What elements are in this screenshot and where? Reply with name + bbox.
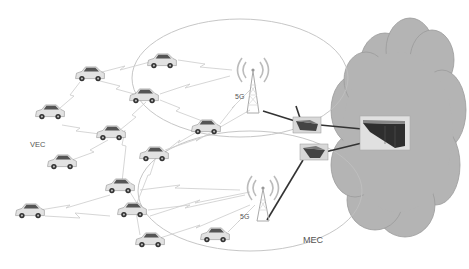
vehicle-icon [148, 54, 177, 68]
5g-tower-top-icon [238, 58, 269, 113]
vehicle-icon [106, 179, 135, 193]
vec-label: VEC [30, 140, 46, 149]
vehicle-icon [118, 203, 147, 217]
5g-tower-bottom-icon [248, 176, 279, 221]
lower-coverage-ellipse [138, 131, 362, 251]
vehicle-icon [136, 233, 165, 247]
vehicle-icon [16, 204, 45, 218]
vehicle-icon [140, 147, 169, 161]
vehicle-icon [201, 228, 230, 242]
vehicle-icon [192, 120, 221, 134]
vehicle-icon [48, 155, 77, 169]
vehicle-icon [76, 67, 105, 81]
vehicle-icon [97, 126, 126, 140]
vec-mec-network-diagram: 5G 5G VEC MEC [0, 0, 469, 269]
vehicle-icon [36, 105, 65, 119]
mec-server-upper [293, 117, 321, 133]
mec-server-lower [300, 144, 328, 160]
mec-label: MEC [303, 235, 324, 245]
vehicles [16, 54, 230, 247]
tower-bottom-label: 5G [240, 213, 249, 220]
vehicle-icon [130, 89, 159, 103]
cloud-datacenter-server [360, 116, 410, 150]
tower-top-label: 5G [235, 93, 244, 100]
